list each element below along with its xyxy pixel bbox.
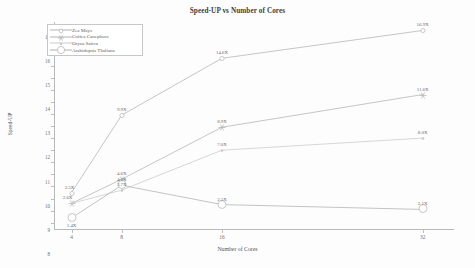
x-tick-label: 32 [420, 234, 425, 240]
y-tick-label: 14 [45, 106, 50, 112]
x-tick-label: 16 [219, 234, 224, 240]
y-tick-label: 8 [47, 251, 50, 257]
y-tick-label: 10 [45, 203, 50, 209]
data-point-label: 14.6X [216, 50, 228, 55]
legend-item-arabidopsis-thaliana[interactable]: Arabidopsis Thaliana [50, 47, 139, 54]
data-point-label: 4.1X [117, 177, 127, 182]
data-point-label: 1.4X [67, 222, 77, 227]
y-tick-label: 11 [45, 179, 50, 185]
y-tick-label: 13 [45, 130, 50, 136]
legend-label: Oryza Sativa [72, 41, 98, 46]
data-point-label: 8.0X [418, 130, 428, 135]
data-point-label: 11.6X [417, 86, 429, 91]
data-point-label: 3.7X [117, 182, 127, 187]
data-point-label: 9.9X [117, 107, 127, 112]
legend-label: Zea Mays [72, 28, 92, 33]
data-point-label: 4.6X [117, 171, 127, 176]
x-tick-label: 8 [120, 234, 123, 240]
data-point-label: 2.1X [418, 201, 428, 206]
y-tick-label: 12 [45, 154, 50, 160]
chart-legend: Zea MaysCoffea CanephoraOryza SativaArab… [47, 24, 143, 56]
legend-marker-icon [50, 47, 72, 54]
data-point-label: 16.9X [417, 22, 429, 27]
y-tick-label: 9 [47, 227, 50, 233]
data-point-label: 3.5X [65, 184, 75, 189]
chart-title: Speed-UP vs Number of Cores [0, 7, 475, 15]
legend-label: Coffea Canephora [72, 34, 108, 39]
y-tick-label: 16 [45, 58, 50, 64]
y-axis-title: Speed-UP [7, 113, 13, 136]
x-tick-label: 4 [70, 234, 73, 240]
y-tick-label: 15 [45, 82, 50, 88]
data-point-label: 2.5X [217, 196, 227, 201]
legend-label: Arabidopsis Thaliana [72, 48, 115, 53]
x-axis-title: Number of Cores [0, 246, 475, 252]
data-point-label: 2.6X [63, 195, 73, 200]
data-point-label: 8.9X [217, 119, 227, 124]
data-point-label: 7.0X [217, 142, 227, 147]
chart-screenshot: Speed-UP vs Number of Cores Speed-UP Num… [0, 0, 475, 268]
